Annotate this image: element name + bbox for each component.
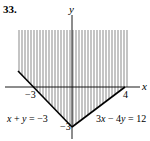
tick-label-x-4: 4: [123, 89, 128, 100]
x-axis-label: x: [141, 80, 147, 92]
y-axis-label: y: [68, 3, 74, 15]
equation-right: 3x − 4y = 12: [96, 113, 146, 124]
inequality-graph-figure: 33. x y −3 4 −3 x + y = −3 3x − 4y = 12: [0, 0, 150, 141]
graph-svg: 33. x y −3 4 −3 x + y = −3 3x − 4y = 12: [0, 0, 150, 141]
tick-label-y-neg3: −3: [60, 121, 71, 132]
tick-label-x-neg3: −3: [25, 89, 36, 100]
equation-left: x + y = −3: [6, 113, 48, 124]
problem-number: 33.: [3, 3, 17, 15]
